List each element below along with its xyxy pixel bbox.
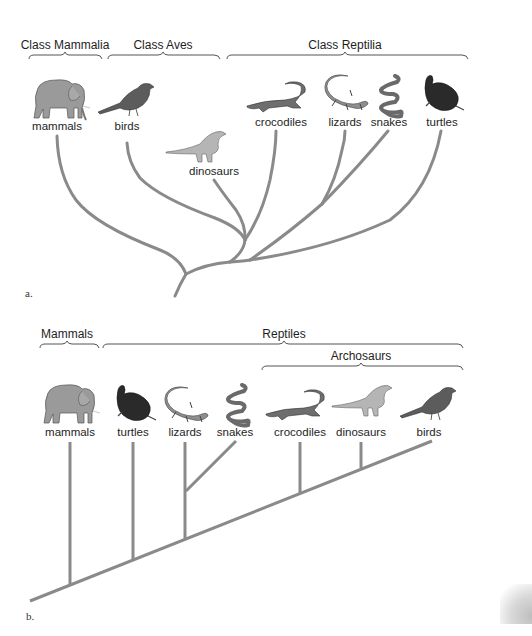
- bracket-archosaurs: [262, 363, 463, 370]
- group-label-reptiles: Reptiles: [262, 327, 305, 341]
- cladogram-base: [30, 441, 432, 601]
- dinosaur-icon: [332, 385, 392, 416]
- panel-a-tree: [57, 131, 441, 296]
- taxon-label-crocodiles-b: crocodiles: [274, 426, 326, 438]
- turtle-icon: [117, 386, 156, 421]
- taxon-label-birds-a: birds: [115, 120, 140, 132]
- snake-icon: [228, 385, 249, 426]
- panel-a-tag: a.: [25, 287, 33, 299]
- branch-birds-a: [127, 143, 245, 240]
- lizard-icon: [325, 75, 368, 110]
- taxon-label-mammals-b: mammals: [45, 426, 95, 438]
- crocodile-icon: [247, 82, 305, 112]
- taxon-label-mammals-a: mammals: [32, 120, 82, 132]
- bird-icon: [98, 84, 154, 117]
- group-label-class-reptilia: Class Reptilia: [308, 38, 381, 52]
- panel-b-tree: [30, 441, 432, 601]
- bracket-mammals: [40, 341, 99, 348]
- taxon-label-snakes-b: snakes: [217, 426, 253, 438]
- group-label-class-mammalia: Class Mammalia: [21, 38, 110, 52]
- panel-b-tag: b.: [26, 610, 34, 622]
- lizard-icon: [165, 387, 208, 422]
- bracket-class-reptilia: [227, 52, 468, 59]
- group-label-archosaurs: Archosaurs: [331, 349, 392, 363]
- dinosaur-icon: [166, 131, 226, 162]
- page-corner-shadow: [500, 584, 532, 624]
- panel-b-brackets: [40, 341, 463, 370]
- panel-b-animals: [44, 385, 456, 426]
- bracket-class-mammalia: [29, 52, 102, 59]
- branch-mammals-a: [57, 136, 186, 274]
- taxon-label-snakes-a: snakes: [371, 116, 407, 128]
- branch-snakes-b: [186, 441, 236, 491]
- crocodile-icon: [266, 390, 324, 420]
- taxon-label-turtles-a: turtles: [426, 116, 457, 128]
- panel-a-brackets: [29, 52, 468, 59]
- phylogeny-figure: [0, 0, 532, 636]
- bird-icon: [400, 388, 456, 421]
- group-label-class-aves: Class Aves: [133, 38, 192, 52]
- taxon-label-dinosaurs-a: dinosaurs: [189, 165, 239, 177]
- branch-crocodiles-a: [245, 131, 276, 240]
- elephant-icon: [34, 80, 90, 120]
- turtle-icon: [425, 76, 464, 111]
- taxon-label-lizards-a: lizards: [328, 116, 361, 128]
- snake-icon: [381, 76, 402, 117]
- taxon-label-turtles-b: turtles: [117, 426, 148, 438]
- taxon-label-crocodiles-a: crocodiles: [255, 116, 307, 128]
- bracket-class-aves: [108, 52, 220, 59]
- group-label-mammals: Mammals: [41, 327, 93, 341]
- bracket-reptiles: [103, 341, 463, 348]
- branch-dinosaurs-a: [214, 180, 245, 240]
- taxon-label-lizards-b: lizards: [168, 426, 201, 438]
- taxon-label-birds-b: birds: [417, 426, 442, 438]
- elephant-icon: [44, 385, 100, 423]
- branch-snakes-a: [322, 131, 388, 204]
- taxon-label-dinosaurs-b: dinosaurs: [336, 426, 386, 438]
